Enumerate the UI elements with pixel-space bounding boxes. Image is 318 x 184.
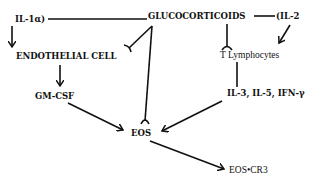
edge-gmcsf-eos <box>68 103 123 130</box>
edge-gluco-endothelial-inhibit <box>129 26 152 48</box>
node-eos-cr3: EOS•CR3 <box>229 165 268 175</box>
edge-il3-eos <box>162 101 222 131</box>
node-gm-csf: GM-CSF <box>35 91 74 101</box>
node-il3-il5-ifng: IL-3, IL-5, IFN-γ <box>227 88 305 98</box>
node-il1a: IL-1α) <box>15 14 45 24</box>
glucocorticoid-eosinophil-pathway-diagram: IL-1α) GLUCOCORTICOIDS (IL-2 ENDOTHELIAL… <box>0 0 318 184</box>
node-endothelial-cell: ENDOTHELIAL CELL <box>16 51 117 61</box>
edge-eos-eoscr3 <box>150 141 224 169</box>
node-glucocorticoids: GLUCOCORTICOIDS <box>148 11 245 21</box>
node-eos: EOS <box>131 128 151 138</box>
node-t-lymphocytes: T Lymphocytes <box>220 50 279 60</box>
edge-gluco-eos-inhibit <box>145 26 152 121</box>
edge-il2-tlymph <box>279 25 290 43</box>
node-il2: (IL-2 <box>276 11 299 21</box>
inhibit-cap-eos <box>141 120 149 124</box>
